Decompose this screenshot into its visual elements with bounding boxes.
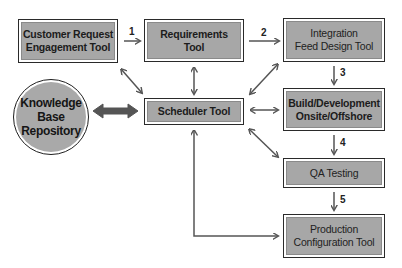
node-label: Build/Development Onsite/Offshore [286, 91, 382, 128]
node-label: Production Configuration Tool [286, 217, 382, 255]
step-label-1: 1 [129, 26, 135, 37]
step-label-2: 2 [261, 27, 267, 38]
node-label: Customer Request Engagement Tool [21, 22, 115, 60]
thick-arrow-knowledge-scheduler [93, 104, 138, 118]
node-label: Integration Feed Design Tool [286, 21, 382, 59]
arrow-scheduler-integration [250, 64, 278, 94]
arrow-scheduler-customer [121, 69, 142, 93]
arrow-scheduler-production [194, 130, 278, 236]
node-label: QA Testing [286, 161, 382, 185]
step-label-3: 3 [340, 67, 346, 78]
arrow-scheduler-qa [249, 129, 278, 157]
step-label-5: 5 [340, 194, 346, 205]
workflow-diagram: 1 2 3 4 5 Customer Request Engagement To… [0, 0, 402, 268]
node-knowledge-base-repository: Knowledge Base Repository [13, 79, 89, 155]
node-integration-feed-design-tool: Integration Feed Design Tool [283, 18, 385, 62]
node-build-development: Build/Development Onsite/Offshore [283, 88, 385, 131]
node-label: Knowledge Base Repository [16, 82, 86, 152]
step-label-4: 4 [340, 137, 346, 148]
node-qa-testing: QA Testing [283, 158, 385, 188]
node-label: Scheduler Tool [147, 101, 241, 122]
node-label: Requirements Tool [147, 22, 241, 59]
node-scheduler-tool: Scheduler Tool [144, 98, 244, 125]
node-requirements-tool: Requirements Tool [144, 19, 244, 62]
node-customer-request-engagement-tool: Customer Request Engagement Tool [18, 19, 118, 63]
node-production-configuration-tool: Production Configuration Tool [283, 214, 385, 258]
